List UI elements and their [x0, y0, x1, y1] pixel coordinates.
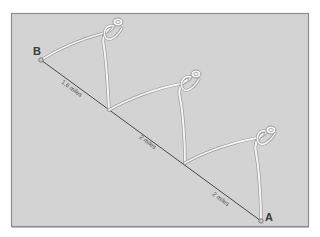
- point-b-label: B: [33, 45, 41, 57]
- point-b-marker: [39, 58, 43, 62]
- point-a-marker: [259, 219, 263, 223]
- diagram-stage: B A 1.6 miles 2 miles 2 miles: [0, 0, 320, 237]
- divider-measurement-diagram: B A 1.6 miles 2 miles 2 miles: [0, 0, 320, 237]
- background-panel: [12, 14, 309, 227]
- point-a-label: A: [265, 211, 273, 223]
